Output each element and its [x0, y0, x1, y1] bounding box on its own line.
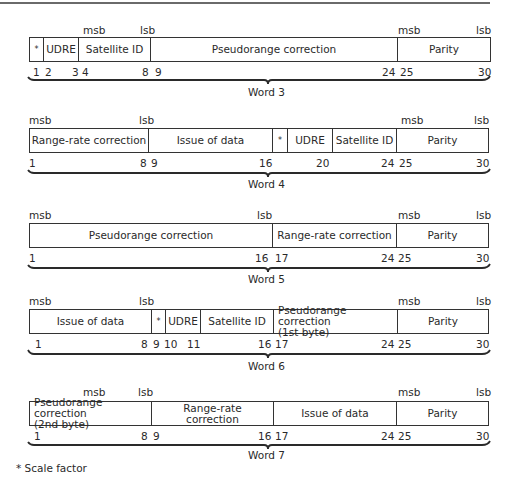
word-caption: Word 7 [248, 449, 285, 461]
word-brace [0, 0, 513, 480]
scale-factor-footnote: * Scale factor [16, 462, 87, 474]
